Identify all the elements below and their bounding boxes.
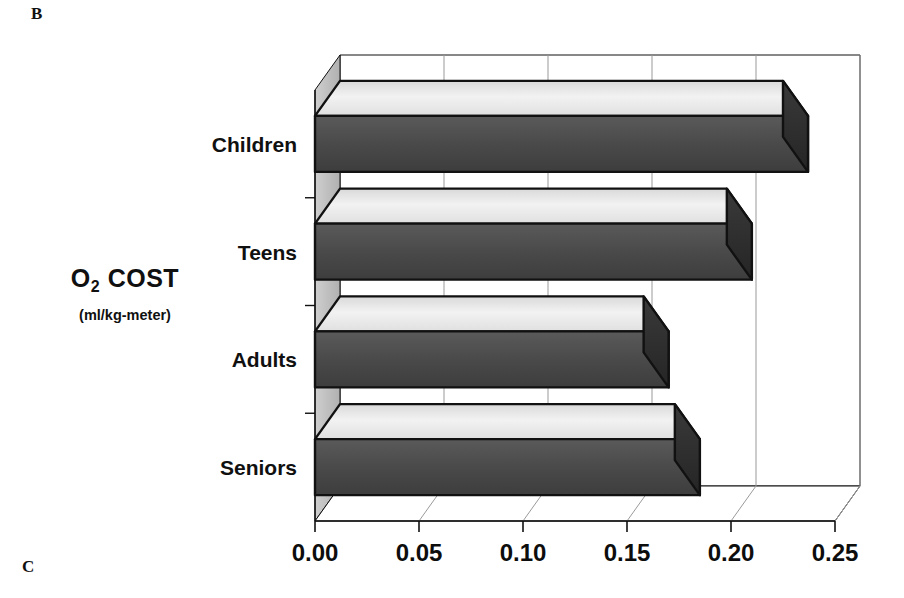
bar-children[interactable] xyxy=(315,81,808,172)
y-axis-ticks xyxy=(305,198,315,414)
bar-front-face xyxy=(315,116,808,172)
bar-chart: ChildrenTeensAdultsSeniors0.000.050.100.… xyxy=(0,0,904,598)
bar-seniors[interactable] xyxy=(315,404,700,495)
bar-front-face xyxy=(315,439,700,495)
bar-teens[interactable] xyxy=(315,189,752,280)
x-tick-label: 0.25 xyxy=(812,539,859,566)
category-label-teens: Teens xyxy=(238,241,297,264)
category-label-adults: Adults xyxy=(232,348,297,371)
x-tick-label: 0.00 xyxy=(292,539,339,566)
y-axis-labels: ChildrenTeensAdultsSeniors xyxy=(212,133,297,479)
chart-canvas: ChildrenTeensAdultsSeniors0.000.050.100.… xyxy=(0,0,904,598)
bar-top-face xyxy=(315,189,752,224)
x-tick-label: 0.05 xyxy=(396,539,443,566)
bar-top-face xyxy=(315,81,808,116)
x-tick-label: 0.10 xyxy=(500,539,547,566)
x-axis-labels: 0.000.050.100.150.200.25 xyxy=(292,539,859,566)
x-tick-label: 0.15 xyxy=(604,539,651,566)
bar-front-face xyxy=(315,224,752,280)
category-label-seniors: Seniors xyxy=(220,456,297,479)
category-label-children: Children xyxy=(212,133,297,156)
bar-front-face xyxy=(315,331,669,387)
bar-top-face xyxy=(315,404,700,439)
bar-adults[interactable] xyxy=(315,296,669,387)
bar-top-face xyxy=(315,296,669,331)
x-tick-label: 0.20 xyxy=(708,539,755,566)
